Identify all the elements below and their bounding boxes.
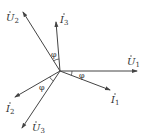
phasor-i2-arrow	[15, 71, 60, 97]
phasor-i1-arrow	[60, 71, 110, 90]
angle-arc	[50, 77, 54, 81]
phasor-diagram: φφφ U1I1I3U2I2U3	[0, 0, 149, 139]
phasor-i3-label: I3	[59, 14, 68, 27]
angle-phi-label: φ	[79, 71, 85, 80]
phasor-i1-label: I1	[110, 94, 119, 107]
phasor-u2-arrow	[23, 12, 60, 71]
phasor-u3-label: U3	[32, 122, 45, 135]
phasor-labels: U1I1I3U2I2U3	[5, 11, 140, 135]
phasor-dot-icon	[9, 102, 10, 103]
angle-phi-label: φ	[39, 83, 45, 92]
phasor-i2-label: I2	[5, 103, 14, 116]
angle-phi-label: φ	[51, 50, 57, 59]
phasor-i3-arrow	[56, 22, 60, 71]
phasor-dot-icon	[130, 55, 131, 56]
phasor-dot-icon	[9, 11, 10, 12]
phasor-vectors	[15, 12, 137, 128]
phasor-dot-icon	[114, 93, 115, 94]
phasor-dot-icon	[63, 13, 64, 14]
phasor-svg: φφφ U1I1I3U2I2U3	[0, 0, 149, 139]
phasor-u2-label: U2	[6, 12, 19, 25]
phasor-u3-arrow	[22, 71, 60, 128]
angle-arc	[54, 59, 59, 61]
phasor-u1-label: U1	[127, 56, 140, 69]
phasor-dot-icon	[35, 121, 36, 122]
angle-arc	[71, 71, 72, 75]
